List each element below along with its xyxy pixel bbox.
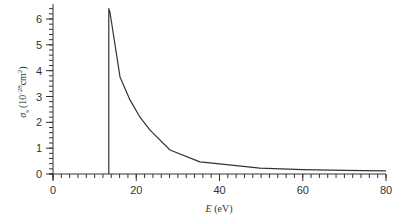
cross-section-curve [109,9,386,174]
x-tick-label: 80 [380,184,392,196]
y-tick-label: 2 [36,116,42,128]
x-tick-label: 0 [50,184,56,196]
cross-section-chart: 0123456 020406080 E (eV) σs(10-28cm2) [0,0,402,220]
y-tick-label: 5 [36,39,42,51]
x-axis-label: E (eV) [205,203,233,215]
y-tick-label: 4 [36,65,42,77]
y-tick-label: 3 [36,91,42,103]
y-tick-label: 0 [36,168,42,180]
x-tick-label: 40 [213,184,225,196]
y-axis-minor-ticks [49,9,53,174]
y-tick-label: 1 [36,142,42,154]
x-tick-label: 20 [130,184,142,196]
y-axis-label: σs(10-28cm2) [16,66,31,117]
x-axis-major-ticks: 020406080 [50,174,392,196]
y-tick-label: 6 [36,13,42,25]
x-tick-label: 60 [297,184,309,196]
y-axis-major-ticks: 0123456 [36,13,53,180]
